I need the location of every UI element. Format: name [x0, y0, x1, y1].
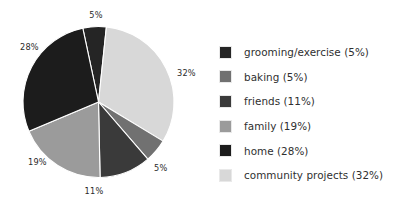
- pie-slice-percentage-label: 28%: [20, 42, 39, 52]
- pie-slice-percentage-label: 32%: [177, 68, 196, 78]
- legend-item-label: home (28%): [244, 145, 308, 157]
- legend-item[interactable]: baking (5%): [219, 65, 394, 90]
- pie-slice-percentage-label: 5%: [89, 10, 102, 20]
- legend-item-label: friends (11%): [244, 95, 315, 107]
- legend-item[interactable]: community projects (32%): [219, 163, 394, 188]
- legend-swatch-icon: [219, 46, 232, 59]
- legend-item-label: family (19%): [244, 120, 311, 132]
- pie-chart-svg: [0, 0, 205, 205]
- legend-swatch-icon: [219, 169, 232, 182]
- legend-item-label: grooming/exercise (5%): [244, 46, 369, 58]
- legend-item[interactable]: grooming/exercise (5%): [219, 40, 394, 65]
- chart-legend: grooming/exercise (5%)baking (5%)friends…: [219, 40, 394, 188]
- legend-swatch-icon: [219, 120, 232, 133]
- pie-slice-group: [23, 27, 174, 178]
- pie-slice-percentage-label: 11%: [85, 186, 104, 196]
- legend-item-label: community projects (32%): [244, 169, 383, 181]
- legend-swatch-icon: [219, 70, 232, 83]
- pie-slice-percentage-label: 19%: [28, 157, 47, 167]
- pie-chart-plot-area: 5%32%5%11%19%28%: [0, 0, 205, 205]
- legend-item[interactable]: family (19%): [219, 114, 394, 139]
- pie-chart-figure: 5%32%5%11%19%28% grooming/exercise (5%)b…: [0, 0, 394, 205]
- legend-swatch-icon: [219, 95, 232, 108]
- legend-item-label: baking (5%): [244, 71, 308, 83]
- legend-item[interactable]: friends (11%): [219, 89, 394, 114]
- legend-swatch-icon: [219, 144, 232, 157]
- legend-item[interactable]: home (28%): [219, 138, 394, 163]
- pie-slice-percentage-label: 5%: [154, 163, 167, 173]
